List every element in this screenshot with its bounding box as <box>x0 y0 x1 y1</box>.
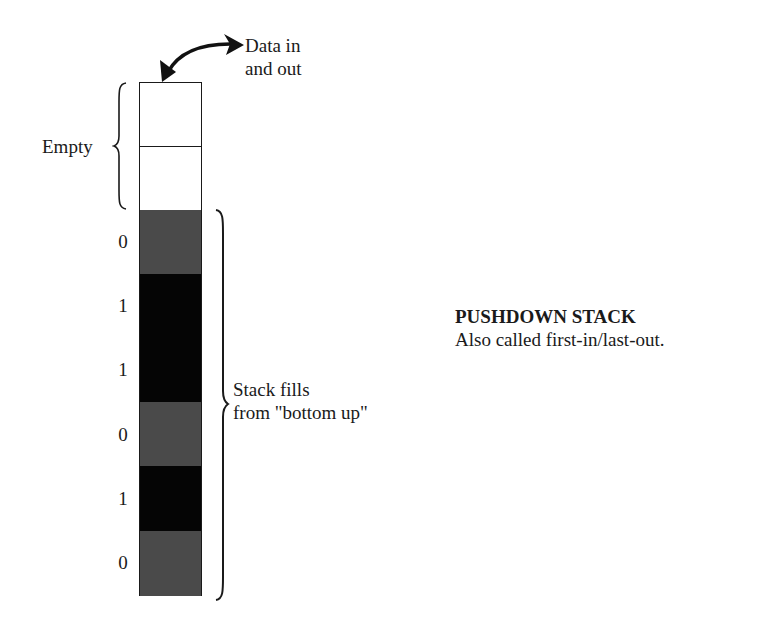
arrow-label-line2: and out <box>245 57 301 80</box>
fill-label: Stack fills from "bottom up" <box>233 378 368 424</box>
bit-label: 0 <box>113 423 133 446</box>
right-brace-icon <box>214 209 230 601</box>
diagram-title: PUSHDOWN STACK <box>455 306 636 328</box>
stack-cell-empty <box>140 83 201 147</box>
stack-cell-0 <box>140 531 201 596</box>
bit-label: 1 <box>113 294 133 317</box>
bit-label: 0 <box>113 230 133 253</box>
fill-label-line2: from "bottom up" <box>233 401 368 424</box>
stack-cell-1 <box>140 466 201 531</box>
arrow-label-line1: Data in <box>245 34 301 57</box>
pushdown-stack <box>139 82 202 596</box>
arrow-label: Data in and out <box>245 34 301 80</box>
bit-label: 1 <box>113 358 133 381</box>
diagram-subtitle: Also called first-in/last-out. <box>455 329 664 351</box>
stack-cell-0 <box>140 210 201 274</box>
empty-label: Empty <box>42 135 93 158</box>
fill-label-line1: Stack fills <box>233 378 368 401</box>
stack-cell-empty <box>140 147 201 210</box>
stack-cell-0 <box>140 402 201 466</box>
bit-label: 0 <box>113 551 133 574</box>
double-arrow-icon <box>150 20 260 90</box>
stack-cell-1 <box>140 274 201 338</box>
left-brace-icon <box>112 82 128 210</box>
bit-label: 1 <box>113 487 133 510</box>
stack-cell-1 <box>140 338 201 402</box>
